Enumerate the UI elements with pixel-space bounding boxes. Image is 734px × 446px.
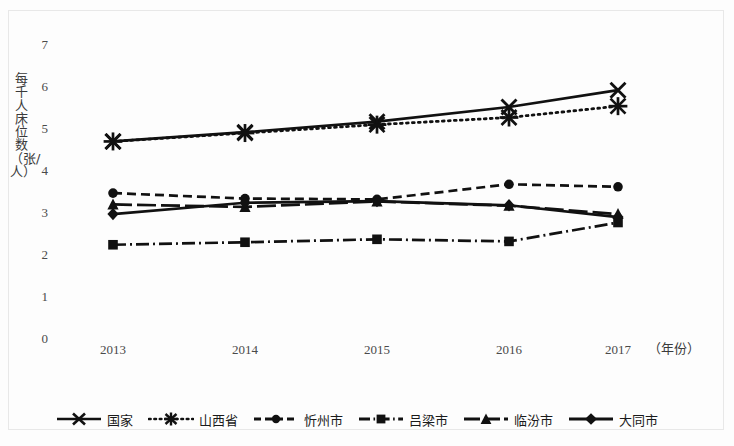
square-marker <box>504 237 514 247</box>
square-marker <box>240 237 250 247</box>
series-3 <box>108 218 623 250</box>
legend-label-linfenshi: 临汾市 <box>514 410 553 429</box>
circle-marker <box>504 179 514 189</box>
circle-marker <box>613 182 623 192</box>
diamond-marker <box>107 208 118 220</box>
asterisk-marker <box>609 97 628 115</box>
triangle-marker-icon <box>463 411 509 427</box>
chart-container: 每千人床位数（张/人） （年份） 7 6 5 4 3 2 1 0 2013 20… <box>0 0 734 446</box>
asterisk-marker <box>368 116 387 134</box>
legend-item-guojia[interactable]: 国家 <box>56 410 133 429</box>
circle-marker-icon <box>253 411 299 427</box>
legend-item-shanxisheng[interactable]: 山西省 <box>148 410 238 429</box>
asterisk-marker <box>236 124 255 142</box>
circle-marker <box>108 188 118 198</box>
legend-label-xinzhoushi: 忻州市 <box>304 410 343 429</box>
legend-item-linfenshi[interactable]: 临汾市 <box>463 410 553 429</box>
square-marker <box>108 240 118 250</box>
asterisk-marker <box>104 132 123 150</box>
series-0 <box>106 83 626 149</box>
cross-marker-icon <box>56 411 102 427</box>
series-layer <box>104 83 628 250</box>
asterisk-marker-icon <box>148 411 194 427</box>
square-marker-icon <box>358 411 404 427</box>
legend-label-shanxisheng: 山西省 <box>199 410 238 429</box>
legend-item-xinzhoushi[interactable]: 忻州市 <box>253 410 343 429</box>
diamond-marker-icon <box>568 411 614 427</box>
legend-label-datongshi: 大同市 <box>619 410 658 429</box>
legend-label-guojia: 国家 <box>107 410 133 429</box>
square-marker <box>372 235 382 245</box>
plot-canvas <box>0 0 734 446</box>
chart-legend: 国家 山西省 忻州市 <box>56 405 706 433</box>
legend-item-lvliangshi[interactable]: 吕梁市 <box>358 410 448 429</box>
legend-item-datongshi[interactable]: 大同市 <box>568 410 658 429</box>
legend-label-lvliangshi: 吕梁市 <box>409 410 448 429</box>
asterisk-marker <box>500 109 519 127</box>
